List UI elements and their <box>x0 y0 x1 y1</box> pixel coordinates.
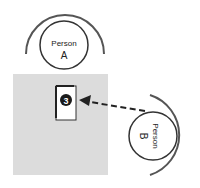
person-b-label-line2: B <box>138 133 149 140</box>
diagram-canvas: Person A Person B 3 <box>0 0 200 188</box>
marker-3: 3 <box>56 86 76 120</box>
marker-number: 3 <box>63 96 68 106</box>
person-a-label-line1: Person <box>51 39 76 48</box>
person-b: Person B <box>129 95 179 175</box>
person-a: Person A <box>26 15 104 69</box>
person-b-label-line1: Person <box>151 123 160 148</box>
person-a-label-line2: A <box>61 50 68 61</box>
